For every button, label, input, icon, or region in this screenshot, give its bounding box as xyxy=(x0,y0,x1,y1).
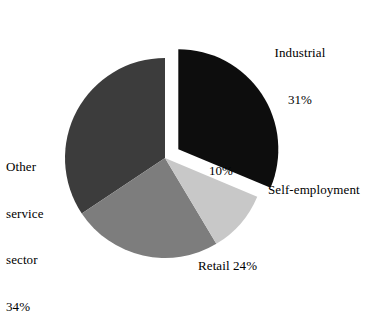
slice-label-other-line-2: service xyxy=(6,206,64,222)
slice-label-other-value: 34% xyxy=(6,299,64,315)
slice-label-other-line-1: Other xyxy=(6,159,64,175)
slice-label-industrial-value: 31% xyxy=(252,92,348,108)
slice-label-other-line-3: sector xyxy=(6,252,64,268)
slice-label-retail: Retail 24% xyxy=(198,258,302,274)
slice-label-industrial: Industrial 31% xyxy=(252,14,348,138)
slice-label-self-employment: Self-employment xyxy=(268,182,380,198)
slice-label-industrial-name: Industrial xyxy=(252,45,348,61)
slice-label-other-service-sector: Other service sector 34% xyxy=(6,128,64,315)
slice-value-self-employment: 10% xyxy=(198,163,244,179)
